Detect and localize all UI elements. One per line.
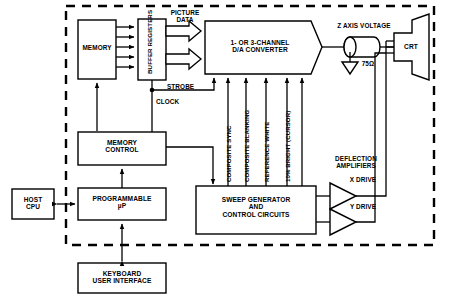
picture-data-label: PICTURE DATA (160, 9, 210, 23)
picture-data-arrow-upper (166, 21, 201, 41)
deflection-amplifiers-label: DEFLECTION AMPLIFIERS (316, 155, 396, 169)
memory-label: MEMORY (78, 44, 116, 51)
reference-white-label: REFERENCE WHITE (264, 122, 271, 182)
composite-blanking-label: COMPOSITE BLANKING (244, 110, 251, 182)
memory-control-label: MEMORY CONTROL (78, 139, 166, 154)
cursor-bright-label: 10% BRIGHT (CURSOR) (285, 111, 292, 182)
block-diagram-canvas: MEMORY BUFFER REGISTERS PICTURE DATA 1- … (0, 0, 449, 301)
x-drive-label: X DRIVE (336, 176, 390, 183)
host-cpu-label: HOST CPU (12, 196, 54, 211)
programmable-up-label: PROGRAMMABLE µP (78, 195, 166, 210)
keyboard-label: KEYBOARD USER INTERFACE (78, 270, 166, 285)
y-drive-label: Y DRIVE (336, 203, 390, 210)
resistor-label: 75Ω (355, 60, 381, 67)
picture-data-arrow-lower (166, 49, 201, 69)
composite-sync-label: COMPOSITE SYNC (226, 125, 233, 182)
buffer-registers-label: BUFFER REGISTERS (147, 14, 154, 74)
da-converter-label: 1- OR 3-CHANNEL D/A CONVERTER (205, 39, 315, 54)
crt-label: CRT (398, 43, 424, 50)
strobe-label: STROBE (167, 83, 211, 90)
clock-label: CLOCK (156, 98, 196, 105)
z-axis-voltage-label: Z AXIS VOLTAGE (322, 22, 406, 29)
sweep-generator-label: SWEEP GENERATOR AND CONTROL CIRCUITS (196, 196, 316, 218)
y-drive-amplifier (330, 209, 356, 235)
